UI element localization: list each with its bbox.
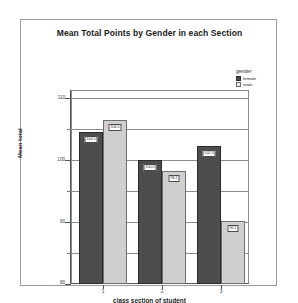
gridline-105 (71, 129, 249, 130)
bar-value-label: 104.5 (85, 136, 98, 143)
legend-label-female: female (243, 76, 256, 81)
bar-male-section-1: 106.5 (103, 120, 127, 284)
y-tick-label-80: 80 (49, 280, 65, 285)
bar-male-section-3: 90.1 (221, 221, 245, 284)
bar-value-label: 106.5 (109, 124, 122, 131)
chart-title: Mean Total Points by Gender in each Sect… (21, 28, 278, 38)
bar-value-label: 102.3 (203, 150, 216, 157)
x-tick-label-3: 3 (211, 289, 231, 294)
legend: gender female male (236, 68, 282, 88)
bar-value-label: 98.2 (169, 175, 180, 182)
bar-female-section-2: 100.0 (138, 160, 162, 284)
y-tick-80 (65, 284, 71, 285)
legend-swatch-male-icon (236, 82, 241, 87)
bar-male-section-2: 98.2 (162, 171, 186, 284)
legend-item-female: female (236, 76, 282, 81)
gridline-110 (71, 98, 249, 99)
legend-item-male: male (236, 82, 282, 87)
y-tick-label-110: 110 (49, 95, 65, 100)
y-axis-title: Mean total (17, 98, 23, 158)
x-axis-title: class section of student (21, 297, 278, 303)
x-tick-label-2: 2 (152, 289, 172, 294)
bar-female-section-3: 102.3 (197, 146, 221, 284)
y-tick-label-100: 100 (49, 157, 65, 162)
legend-swatch-female-icon (236, 76, 241, 81)
legend-title: gender (236, 68, 282, 74)
chart-object-frame: Mean Total Points by Gender in each Sect… (20, 19, 277, 286)
bar-female-section-1: 104.5 (79, 132, 103, 284)
chart-screenshot: Mean Total Points by Gender in each Sect… (0, 0, 298, 303)
bar-value-label: 100.0 (144, 164, 157, 171)
y-tick-label-90: 90 (49, 219, 65, 224)
bar-value-label: 90.1 (228, 225, 239, 232)
plot-area: 104.5 106.5 100.0 98.2 102.3 90.1 (71, 90, 249, 284)
x-tick-label-1: 1 (93, 289, 113, 294)
legend-label-male: male (243, 82, 253, 87)
